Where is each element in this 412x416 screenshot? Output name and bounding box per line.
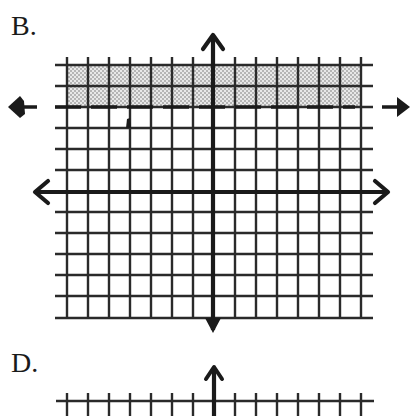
boundary-left-arrow-icon: [8, 96, 37, 118]
graph-d: [56, 367, 374, 416]
graph-b[interactable]: [0, 0, 412, 416]
boundary-right-arrow-icon: [382, 97, 410, 117]
